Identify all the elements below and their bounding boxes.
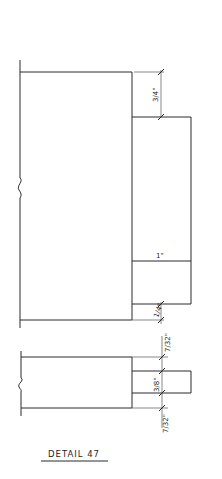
- upper-section: 3/4" 1" 1/4": [18, 60, 191, 328]
- lower-main-body: [21, 357, 132, 408]
- dim-upper-tab: 1": [156, 252, 164, 260]
- lower-tab: [132, 371, 191, 393]
- dim-lower-top: 7/32": [164, 333, 172, 352]
- break-mark-icon: [18, 178, 21, 198]
- upper-tab: [132, 117, 191, 304]
- lower-section: 7/32" 3/8" 7/32": [19, 333, 191, 433]
- detail-drawing: 3/4" 1" 1/4" 7/32" 3/8" 7/32" DETAIL 47: [0, 0, 222, 479]
- dim-upper-top: 3/4": [152, 88, 160, 103]
- detail-title: DETAIL 47: [48, 449, 100, 459]
- dim-lower-bottom: 7/32": [162, 414, 170, 433]
- upper-main-body: [20, 72, 132, 320]
- break-mark-icon: [19, 378, 22, 392]
- dim-upper-bottom: 1/4": [152, 302, 164, 318]
- dim-lower-tab: 3/8": [153, 378, 161, 393]
